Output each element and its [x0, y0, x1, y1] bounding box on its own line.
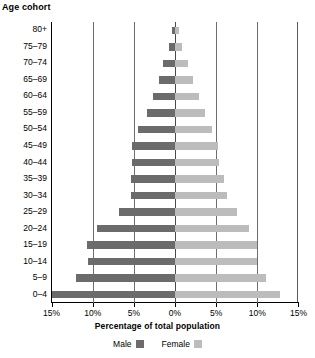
- bar-row: [51, 121, 298, 138]
- legend-swatch-female: [194, 340, 202, 348]
- bar-female-0–4: [175, 291, 280, 299]
- chart-legend: MaleFemale: [0, 339, 315, 349]
- bar-female-30–34: [175, 192, 227, 200]
- x-tick-label-1: 10%: [78, 308, 108, 318]
- bar-row: [51, 88, 298, 105]
- x-tick-mark-5: [257, 303, 258, 307]
- bar-female-80+: [175, 27, 179, 35]
- bar-female-45–49: [175, 142, 218, 150]
- bar-female-20–24: [175, 225, 249, 233]
- bar-row: [51, 204, 298, 221]
- bar-male-45–49: [132, 142, 175, 150]
- x-tick-mark-6: [298, 303, 299, 307]
- bar-male-70–74: [163, 60, 175, 68]
- x-tick-label-0: 15%: [37, 308, 67, 318]
- legend-item-female: Female: [162, 339, 202, 349]
- y-tick-label-50–54: 50–54: [3, 124, 47, 133]
- y-tick-label-75–79: 75–79: [3, 42, 47, 51]
- bar-row: [51, 286, 298, 303]
- y-tick-label-20–24: 20–24: [3, 224, 47, 233]
- bar-row: [51, 154, 298, 171]
- bar-row: [51, 22, 298, 39]
- x-tick-mark-2: [134, 303, 135, 307]
- bar-row: [51, 55, 298, 72]
- legend-label-female: Female: [162, 339, 190, 349]
- y-tick-label-15–19: 15–19: [3, 240, 47, 249]
- bar-female-55–59: [175, 109, 205, 117]
- bar-male-30–34: [131, 192, 175, 200]
- x-tick-mark-3: [175, 303, 176, 307]
- bar-male-35–39: [131, 175, 175, 183]
- bar-female-10–14: [175, 258, 257, 266]
- bar-row: [51, 105, 298, 122]
- legend-swatch-male: [136, 340, 144, 348]
- legend-item-male: Male: [113, 339, 143, 349]
- bar-female-75–79: [175, 43, 182, 51]
- bar-male-10–14: [88, 258, 175, 266]
- bar-male-0–4: [52, 291, 175, 299]
- bar-row: [51, 253, 298, 270]
- bar-row: [51, 270, 298, 287]
- bar-female-65–69: [175, 76, 193, 84]
- bar-female-5–9: [175, 274, 266, 282]
- bar-row: [51, 187, 298, 204]
- bar-male-60–64: [153, 93, 175, 101]
- y-tick-label-25–29: 25–29: [3, 207, 47, 216]
- bar-row: [51, 138, 298, 155]
- y-tick-label-80+: 80+: [3, 25, 47, 34]
- bar-female-15–19: [175, 241, 257, 249]
- y-tick-label-70–74: 70–74: [3, 58, 47, 67]
- y-tick-label-65–69: 65–69: [3, 75, 47, 84]
- bar-row: [51, 171, 298, 188]
- bar-male-50–54: [138, 126, 175, 134]
- y-tick-label-60–64: 60–64: [3, 91, 47, 100]
- bar-row: [51, 220, 298, 237]
- bar-female-70–74: [175, 60, 188, 68]
- bar-female-25–29: [175, 208, 237, 216]
- x-tick-label-4: 5%: [201, 308, 231, 318]
- bar-female-40–44: [175, 159, 219, 167]
- bar-female-60–64: [175, 93, 199, 101]
- x-tick-mark-0: [52, 303, 53, 307]
- bar-male-15–19: [87, 241, 175, 249]
- x-tick-label-6: 15%: [283, 308, 313, 318]
- bar-male-25–29: [119, 208, 175, 216]
- y-tick-label-45–49: 45–49: [3, 141, 47, 150]
- y-axis-tick-labels: 80+75–7970–7465–6960–6455–5950–5445–4940…: [0, 22, 47, 303]
- plot-area: [51, 22, 298, 303]
- y-tick-label-10–14: 10–14: [3, 257, 47, 266]
- x-tick-label-5: 10%: [242, 308, 272, 318]
- bar-male-65–69: [159, 76, 175, 84]
- x-tick-mark-1: [93, 303, 94, 307]
- bar-male-55–59: [147, 109, 175, 117]
- y-axis-title: Age cohort: [2, 2, 51, 12]
- bar-male-20–24: [97, 225, 175, 233]
- y-tick-label-30–34: 30–34: [3, 191, 47, 200]
- bar-row: [51, 39, 298, 56]
- bar-female-35–39: [175, 175, 224, 183]
- bar-male-40–44: [132, 159, 175, 167]
- y-tick-label-0–4: 0–4: [3, 290, 47, 299]
- x-tick-label-3: 0%: [160, 308, 190, 318]
- bar-male-5–9: [76, 274, 175, 282]
- y-tick-label-35–39: 35–39: [3, 174, 47, 183]
- y-tick-label-40–44: 40–44: [3, 158, 47, 167]
- x-tick-mark-4: [216, 303, 217, 307]
- y-tick-label-55–59: 55–59: [3, 108, 47, 117]
- bar-female-50–54: [175, 126, 212, 134]
- legend-label-male: Male: [113, 339, 131, 349]
- population-pyramid-chart: Age cohort 80+75–7970–7465–6960–6455–595…: [0, 0, 315, 358]
- x-axis-title: Percentage of total population: [0, 321, 315, 331]
- bar-row: [51, 72, 298, 89]
- bar-row: [51, 237, 298, 254]
- x-tick-label-2: 5%: [119, 308, 149, 318]
- y-tick-label-5–9: 5–9: [3, 273, 47, 282]
